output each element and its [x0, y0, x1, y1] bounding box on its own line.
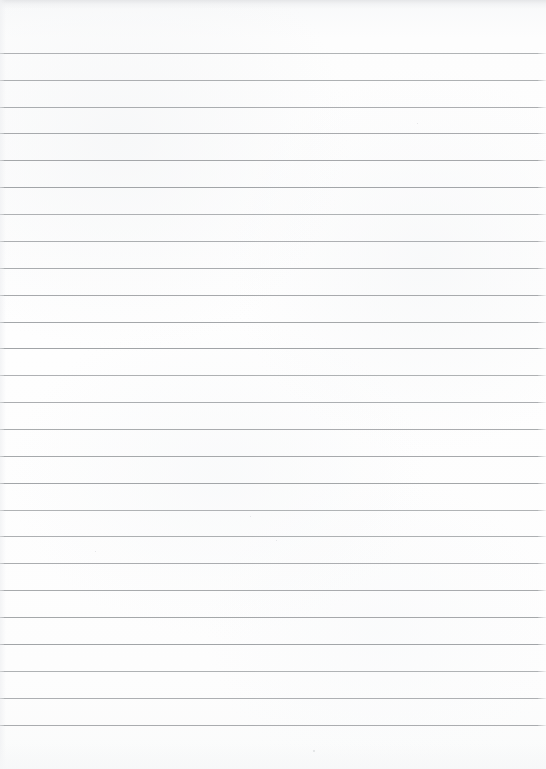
scanned-page: [0, 0, 546, 769]
scan-speck: [95, 551, 96, 552]
scan-speck: [250, 516, 251, 517]
scan-artifacts-layer: [0, 0, 546, 769]
scan-speck: [313, 750, 315, 752]
scan-speck: [417, 123, 418, 124]
scan-speck: [276, 540, 277, 541]
